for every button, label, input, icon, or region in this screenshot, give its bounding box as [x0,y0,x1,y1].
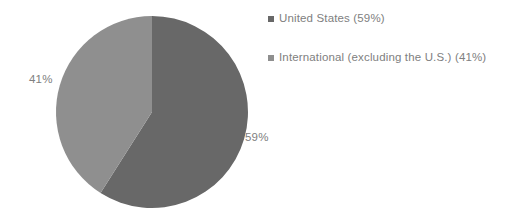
legend-item-united-states[interactable]: United States (59%) [268,11,508,26]
legend-item-international[interactable]: International (excluding the U.S.) (41%) [268,50,508,65]
pie-svg [0,0,300,223]
legend-swatch-icon-international [268,55,274,61]
legend-label-united-states: United States (59%) [279,11,385,26]
pie-label-international: 41% [29,74,53,86]
legend-label-international: International (excluding the U.S.) (41%) [279,50,486,65]
chart-legend: United States (59%) International (exclu… [268,11,508,89]
pie-label-united-states: 59% [245,132,269,144]
pie-chart: 41% 59% United States (59%) Internationa… [0,0,511,223]
legend-swatch-icon-united-states [268,16,274,22]
pie-plot-area: 41% 59% [0,0,300,223]
